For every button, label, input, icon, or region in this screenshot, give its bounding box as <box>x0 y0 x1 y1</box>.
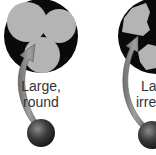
label-line-2: irregular <box>136 94 156 110</box>
label-line-1: Large, <box>17 78 65 94</box>
irregular-particle <box>122 3 150 36</box>
label-large-round: Large, round <box>17 78 65 110</box>
label-line-1: Large, <box>136 78 156 94</box>
panel-large-irregular <box>118 0 156 149</box>
label-large-irregular: Large, irregular <box>136 78 156 110</box>
round-particle <box>7 2 47 42</box>
small-sphere-icon <box>27 119 55 147</box>
label-line-2: round <box>17 94 65 110</box>
panel-large-round <box>4 0 78 147</box>
